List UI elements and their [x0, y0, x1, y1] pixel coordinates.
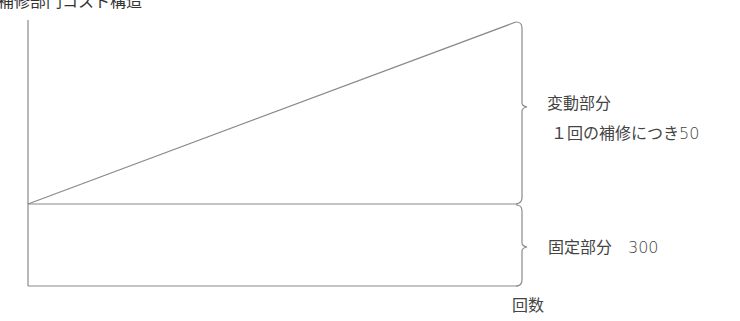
variable-part-label: 変動部分 — [547, 90, 611, 114]
fixed-part-label: 固定部分 300 — [548, 234, 659, 258]
variable-part-brace — [516, 22, 527, 204]
cost-structure-diagram — [0, 0, 740, 321]
fixed-part-brace — [516, 205, 527, 286]
total-cost-line — [28, 22, 516, 204]
variable-rate-label: １回の補修につき50 — [551, 120, 699, 144]
x-axis-label: 回数 — [512, 292, 544, 316]
